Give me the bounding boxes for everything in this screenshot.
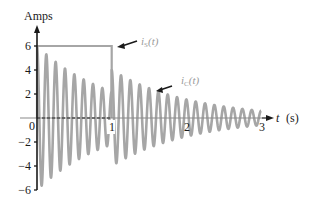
x-axis-unit: (s)	[286, 111, 299, 125]
x-axis-arrow-icon	[266, 115, 274, 121]
y-tick-m6: −6	[18, 183, 31, 197]
x-tick-1: 1	[109, 120, 115, 134]
is-label: iS(t)	[141, 35, 159, 49]
y-axis-arrow-icon	[34, 25, 40, 33]
x-tick-2: 2	[184, 120, 190, 134]
y-axis-title: Amps	[24, 9, 53, 23]
x-tick-3: 3	[259, 120, 265, 134]
y-tick-m2: −2	[18, 135, 31, 149]
y-tick-2: 2	[25, 87, 31, 101]
ic-waveform	[37, 46, 261, 186]
y-tick-4: 4	[25, 63, 31, 77]
x-axis-var: t	[276, 111, 280, 125]
y-tick-m4: −4	[18, 159, 31, 173]
is-arrow-icon	[117, 43, 125, 49]
ic-label: iC(t)	[181, 74, 199, 88]
y-tick-6: 6	[25, 39, 31, 53]
current-waveform-chart: 6 4 2 −2 −4 −6 0 1 2 3 Amps t (s) iS(t) …	[0, 0, 311, 206]
x-tick-0: 0	[29, 119, 35, 133]
